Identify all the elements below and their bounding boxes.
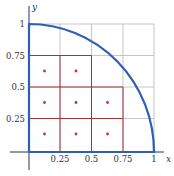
y-tick-label: 0.75 xyxy=(6,51,25,61)
x-tick-label: 1 xyxy=(151,154,156,164)
quarter-circle-partition-diagram: y x 1 0.75 0.5 0.25 0.25 0.5 0.75 1 xyxy=(0,0,174,176)
sample-points xyxy=(43,70,109,136)
y-tick-label: 1 xyxy=(20,19,25,29)
x-tick-label: 0.5 xyxy=(85,154,99,164)
sample-point xyxy=(75,101,78,104)
sample-point xyxy=(106,133,109,136)
sample-point xyxy=(106,101,109,104)
sample-point xyxy=(43,133,46,136)
y-axis-label: y xyxy=(31,2,38,12)
y-tick-label: 0.5 xyxy=(11,82,25,92)
sample-point xyxy=(75,133,78,136)
x-axis-label: x xyxy=(166,154,171,164)
x-tick-label: 0.75 xyxy=(114,154,133,164)
y-tick-label: 0.25 xyxy=(6,114,25,124)
sample-point xyxy=(43,70,46,73)
sample-point xyxy=(43,101,46,104)
axes xyxy=(10,6,164,170)
sample-point xyxy=(75,70,78,73)
x-tick-label: 0.25 xyxy=(51,154,70,164)
